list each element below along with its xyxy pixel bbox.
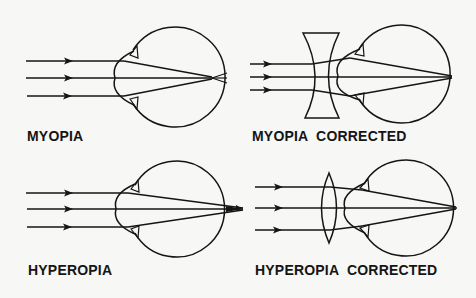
diagram-canvas [0,0,476,298]
panel-myopia [26,27,227,127]
eye [337,25,450,123]
incoming-rays [236,184,457,234]
incoming-rays [250,61,452,94]
panel-myopia-corrected [250,25,452,123]
cornea-outline [337,49,360,100]
vision-correction-diagram: MYOPIA MYOPIA CORRECTED HYPEROPIA HYPERO… [0,0,476,298]
incoming-rays [26,190,243,231]
concave-lens [303,33,339,118]
label-myopia: MYOPIA [27,129,83,143]
refracted-rays [128,193,243,227]
panel-hyperopia-corrected [236,160,457,256]
label-myopia-corrected: MYOPIA CORRECTED [252,129,407,143]
incoming-rays [26,58,212,100]
label-hyperopia: HYPEROPIA [28,263,112,277]
panel-hyperopia [26,161,243,257]
label-hyperopia-corrected: HYPEROPIA CORRECTED [255,263,437,277]
